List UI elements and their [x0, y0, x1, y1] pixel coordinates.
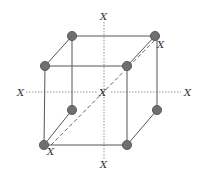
cubic-lattice-diagram: X X X X X X X — [0, 0, 198, 176]
atom-back-bottom-left — [67, 105, 76, 114]
atom-back-bottom-right — [152, 105, 161, 114]
edge-connect-bottom-left — [44, 110, 72, 145]
atom-front-bottom-right — [122, 140, 131, 149]
atom-front-top-right — [122, 61, 131, 70]
label-axis-top: X — [99, 11, 108, 22]
edge-connect-bottom-right — [127, 110, 157, 145]
atom-front-top-left — [40, 61, 49, 70]
edge-front-left — [44, 66, 45, 145]
atom-back-top-left — [67, 31, 76, 40]
label-diagonal-bottom: X — [46, 146, 55, 157]
label-center: X — [98, 87, 107, 98]
label-axis-left: X — [16, 87, 25, 98]
edge-connect-top-left — [45, 36, 72, 66]
label-diagonal-top: X — [156, 39, 165, 50]
label-axis-right: X — [183, 87, 192, 98]
edge-connect-top-right — [127, 36, 155, 66]
label-axis-bottom: X — [99, 159, 108, 170]
